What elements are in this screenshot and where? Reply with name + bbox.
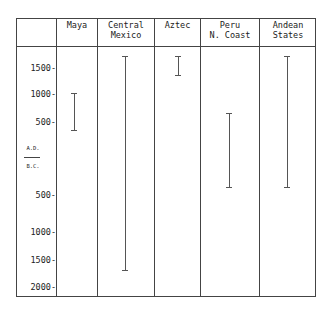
chart-frame (16, 18, 316, 297)
range-cap (175, 75, 181, 76)
header-central-mexico: CentralMexico (98, 20, 154, 46)
column-divider (200, 18, 201, 297)
tick-500-ad: 500- (18, 117, 56, 127)
range-bar-andean-states (287, 56, 288, 187)
column-divider (97, 18, 98, 297)
tick-500-bc: 500- (18, 190, 56, 200)
header-divider (16, 46, 316, 47)
header-maya: Maya (57, 20, 97, 46)
column-divider (56, 18, 57, 297)
tick-2000-bc: 2000- (18, 282, 56, 292)
bc-label: B.C. (18, 163, 48, 169)
header-andean-states: AndeanStates (260, 20, 316, 46)
column-divider (259, 18, 260, 297)
range-cap (122, 270, 128, 271)
header-label: AndeanStates (273, 20, 304, 40)
tick-1000-bc: 1000- (18, 227, 56, 237)
range-cap (71, 130, 77, 131)
column-divider (154, 18, 155, 297)
header-aztec: Aztec (155, 20, 200, 46)
header-label: PeruN. Coast (210, 20, 251, 40)
range-cap (226, 187, 232, 188)
tick-1500-ad: 1500- (18, 63, 56, 73)
header-label: Maya (67, 20, 87, 30)
header-label: CentralMexico (108, 20, 144, 40)
tick-1000-ad: 1000- (18, 89, 56, 99)
range-bar-peru-n-coast (229, 113, 230, 187)
range-cap (284, 187, 290, 188)
header-peru-n-coast: PeruN. Coast (201, 20, 259, 46)
tick-1500-bc: 1500- (18, 255, 56, 265)
range-bar-maya (74, 93, 75, 130)
range-bar-aztec (178, 56, 179, 75)
ad-bc-divider (24, 157, 40, 158)
ad-label: A.D. (18, 145, 48, 151)
range-bar-central-mexico (125, 56, 126, 270)
header-label: Aztec (165, 20, 191, 30)
